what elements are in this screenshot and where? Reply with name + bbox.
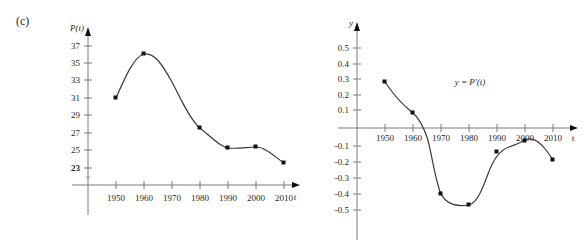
derivative-chart-svg: 0.5 0.4 0.3 0.2 0.1 -0.1 -0.2 -0.3 -0.4 … xyxy=(290,0,584,249)
y-tick-label-neg0p4: -0.4 xyxy=(335,189,350,199)
x-tick-label-1990: 1990 xyxy=(219,193,238,203)
y-axis-group xyxy=(354,22,360,240)
x-tick-label-1970: 1970 xyxy=(163,193,182,203)
data-point-1970 xyxy=(439,192,443,196)
data-point-1960 xyxy=(411,111,415,115)
population-curve xyxy=(116,54,284,163)
axis-break-icon: ≈ xyxy=(86,173,91,182)
y-axis-title: y xyxy=(348,18,353,28)
x-tick-label-1970: 1970 xyxy=(432,133,451,143)
x-axis-arrowhead xyxy=(570,125,578,131)
x-tick-label-1950: 1950 xyxy=(107,193,126,203)
x-axis-group xyxy=(72,182,300,188)
data-point-1980 xyxy=(467,203,471,207)
y-tick-label-neg0p2: -0.2 xyxy=(335,157,349,167)
y-tick-label-neg0p1: -0.1 xyxy=(335,141,349,151)
population-chart-svg: 37 35 33 31 29 27 25 23 ≈ 1950 1960 xyxy=(0,0,300,249)
y-tick-label-29: 29 xyxy=(71,110,81,120)
x-tick-label-1950: 1950 xyxy=(376,133,395,143)
y-axis-arrowhead xyxy=(85,27,91,36)
y-tick-label-0p1: 0.1 xyxy=(338,105,349,115)
data-point-2000 xyxy=(254,145,258,149)
data-point-1950 xyxy=(383,80,387,84)
y-tick-label-37: 37 xyxy=(71,41,81,51)
y-tick-label-35: 35 xyxy=(71,58,81,68)
population-chart-panel: 37 35 33 31 29 27 25 23 ≈ 1950 1960 xyxy=(0,0,300,249)
y-tick-label-0p4: 0.4 xyxy=(338,59,350,69)
data-point-1990 xyxy=(226,146,230,150)
y-tick-label-0p2: 0.2 xyxy=(338,90,349,100)
data-point-2000 xyxy=(523,139,527,143)
curve-equation-label: y = P′(t) xyxy=(454,77,486,87)
figure-root: (c) xyxy=(0,0,584,249)
y-tick-label-31: 31 xyxy=(71,93,80,103)
derivative-curve xyxy=(385,82,553,206)
data-point-2010 xyxy=(282,161,286,165)
derivative-chart-panel: 0.5 0.4 0.3 0.2 0.1 -0.1 -0.2 -0.3 -0.4 … xyxy=(290,0,584,249)
x-tick-label-2000: 2000 xyxy=(247,193,266,203)
x-tick-label-1980: 1980 xyxy=(460,133,479,143)
x-tick-label-1990: 1990 xyxy=(488,133,507,143)
data-point-1990 xyxy=(495,150,499,154)
x-tick-label-1980: 1980 xyxy=(191,193,210,203)
y-tick-label-23: 23 xyxy=(71,163,81,173)
x-axis-title: t xyxy=(572,133,575,143)
y-tick-label-25: 25 xyxy=(71,145,81,155)
data-point-1950 xyxy=(114,96,118,100)
data-point-1960 xyxy=(142,52,146,56)
y-axis-group xyxy=(85,27,91,215)
y-tick-label-27: 27 xyxy=(71,128,81,138)
x-tick-label-1960: 1960 xyxy=(404,133,423,143)
x-tick-label-1960: 1960 xyxy=(135,193,154,203)
y-tick-label-neg0p5: -0.5 xyxy=(335,205,350,215)
y-tick-label-0p5: 0.5 xyxy=(338,43,350,53)
derivative-data-points xyxy=(383,80,555,207)
y-axis-arrowhead xyxy=(354,22,360,31)
data-point-2010 xyxy=(551,158,555,162)
y-tick-label-0p3: 0.3 xyxy=(338,74,350,84)
y-axis-title: P(t) xyxy=(69,23,84,33)
y-tick-label-neg0p3: -0.3 xyxy=(335,173,350,183)
x-axis-group xyxy=(338,125,578,131)
data-point-1980 xyxy=(198,126,202,130)
y-tick-label-33: 33 xyxy=(71,75,81,85)
x-tick-label-2010: 2010 xyxy=(544,133,563,143)
